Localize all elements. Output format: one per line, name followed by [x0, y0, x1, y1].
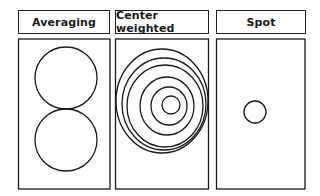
metering-patterns-diagram	[0, 0, 320, 196]
averaging-circle-top	[35, 47, 97, 109]
center-ellipse-4	[140, 77, 194, 135]
panel-spot	[217, 39, 306, 189]
panel-averaging	[19, 39, 111, 189]
panel-center-weighted	[116, 39, 209, 189]
spot-circle	[244, 101, 266, 123]
averaging-circle-bottom	[35, 109, 97, 171]
center-ellipse-5	[151, 87, 187, 125]
center-ellipse-6	[162, 96, 180, 114]
